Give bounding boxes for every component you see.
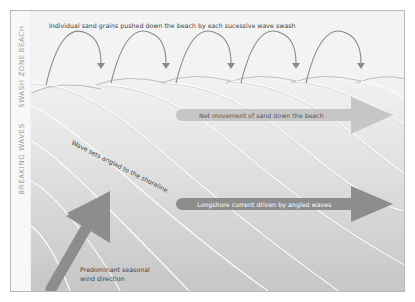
caption-longshore: Longshore current driven by angled waves [197,201,331,209]
zone-label-swash-zone: SWASH ZONE [18,54,26,108]
longshore-drift-diagram: BEACH SWASH ZONE BREAKING WAVES Individu… [11,11,405,292]
caption-wind-line1: Predominant seasonal [80,266,150,273]
zone-label-breaking-waves: BREAKING WAVES [18,123,26,194]
caption-net-movement: Net movement of sand down the beach [199,112,324,119]
caption-wind-line2: wind direction [80,275,124,282]
diagram-frame: BEACH SWASH ZONE BREAKING WAVES Individu… [10,10,405,292]
caption-swash: Individual sand grains pushed down the b… [49,22,296,30]
zone-label-beach: BEACH [18,25,26,52]
